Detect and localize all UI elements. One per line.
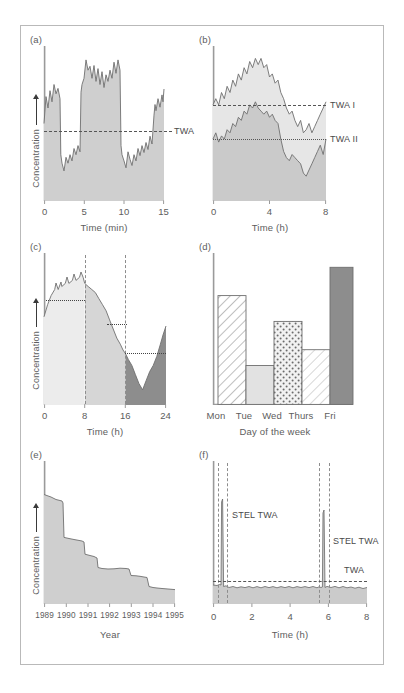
bar-mon xyxy=(218,296,246,405)
panel-e-tag: (e) xyxy=(30,449,42,460)
panel-b-xticklabel-2: 8 xyxy=(316,206,336,217)
panel-b-xticklabel-0: 0 xyxy=(204,206,224,217)
bar-wed xyxy=(274,321,302,404)
panel-f-stel2-end xyxy=(329,463,330,603)
panel-c-shift2-area xyxy=(85,283,126,405)
panel-f-twa-line xyxy=(213,581,367,582)
panel-b-tag: (b) xyxy=(199,34,211,45)
panel-f-xticklabel-0: 0 xyxy=(204,611,224,622)
panel-c-xticklabel-0: 0 xyxy=(35,410,55,421)
panel-a-xticklabel-2: 10 xyxy=(114,206,134,217)
panel-a-xticklabel-0: 0 xyxy=(35,206,55,217)
bar-tue xyxy=(246,366,274,405)
panel-c-shift-divider-8 xyxy=(85,255,86,404)
panel-c-xticklabel-3: 24 xyxy=(156,410,176,421)
panel-f-stel1-label: STEL TWA xyxy=(232,510,278,520)
panel-b-x-axis-label: Time (h) xyxy=(230,222,310,233)
panel-d: (d) xyxy=(193,236,385,441)
bar-fri xyxy=(330,267,353,404)
panel-a-y-arrow-stem xyxy=(36,99,37,125)
panel-b-xticklabel-1: 4 xyxy=(260,206,280,217)
panel-b-twa1-line xyxy=(213,105,326,106)
panel-e-plot xyxy=(44,461,175,604)
panel-e: (e) Concentration 1989 1990 1991 1992 19… xyxy=(21,441,193,666)
panel-e-x-axis-label: Year xyxy=(70,629,150,640)
panel-f-x-axis-label: Time (h) xyxy=(250,629,330,640)
panel-d-category-thurs: Thurs xyxy=(284,410,318,421)
bar-thurs xyxy=(302,350,330,405)
panel-a-xticklabel-3: 15 xyxy=(154,206,174,217)
figure-frame: (a) Concentration TWA 0 5 10 15 Time (mi… xyxy=(20,25,384,665)
panel-c-x-axis-label: Time (h) xyxy=(65,426,145,437)
panel-b-twa2-line xyxy=(213,139,326,140)
panel-c-mean-shift2 xyxy=(107,324,127,325)
panel-f-stel2-label: STEL TWA xyxy=(333,536,379,546)
panel-a-x-axis-label: Time (min) xyxy=(64,222,144,233)
panel-d-category-mon: Mon xyxy=(200,410,232,421)
panel-b-twa1-label: TWA I xyxy=(330,100,355,110)
panel-f-twa-label: TWA xyxy=(344,565,364,575)
panel-c-mean-shift1 xyxy=(46,300,85,301)
panel-f-stel1-end xyxy=(227,463,228,603)
panel-c-shift-divider-16 xyxy=(125,255,126,404)
panel-f-stel1-start xyxy=(218,463,219,603)
panel-f: (f) STEL TWA STEL TWA TWA 0 2 4 6 8 Time… xyxy=(193,441,385,666)
panel-a-xticklabel-1: 5 xyxy=(74,206,94,217)
panel-a-twa-label: TWA xyxy=(174,126,194,136)
panel-b-twa2-label: TWA II xyxy=(330,134,358,144)
panel-c: (c) Concentration xyxy=(21,236,193,441)
panel-c-mean-shift3 xyxy=(125,353,166,354)
panel-f-xticklabel-4: 4 xyxy=(280,611,300,622)
panel-e-xticklabel-1995: 1995 xyxy=(162,611,188,620)
panel-b: (b) TWA I TWA II 0 4 8 Time (h) xyxy=(193,26,385,236)
panel-f-tag: (f) xyxy=(199,449,209,460)
panel-c-y-arrow-stem xyxy=(36,303,37,327)
panel-f-xticklabel-6: 6 xyxy=(318,611,338,622)
panel-d-x-axis-label: Day of the week xyxy=(220,426,330,437)
panel-c-xticklabel-1: 8 xyxy=(75,410,95,421)
panel-f-plot xyxy=(213,461,367,604)
panel-a-tag: (a) xyxy=(30,34,42,45)
panel-a: (a) Concentration TWA 0 5 10 15 Time (mi… xyxy=(21,26,193,236)
panel-e-y-arrow-stem xyxy=(36,508,37,532)
panel-f-xticklabel-8: 8 xyxy=(357,611,377,622)
panel-c-y-axis-label: Concentration xyxy=(31,331,41,390)
panel-c-xticklabel-2: 16 xyxy=(115,410,135,421)
panel-f-xticklabel-2: 2 xyxy=(242,611,262,622)
panel-e-y-axis-label: Concentration xyxy=(31,536,41,595)
panel-c-tag: (c) xyxy=(30,241,42,252)
panel-d-category-tue: Tue xyxy=(229,410,259,421)
panel-c-shift1-area xyxy=(44,272,85,405)
panel-a-twa-line xyxy=(44,131,172,132)
panel-a-y-axis-label: Concentration xyxy=(31,129,41,188)
panel-d-tag: (d) xyxy=(199,241,211,252)
panel-f-stel2-start xyxy=(319,463,320,603)
panel-d-category-fri: Fri xyxy=(317,410,343,421)
panel-d-plot xyxy=(213,253,353,405)
panel-a-plot xyxy=(44,46,164,201)
panel-c-plot xyxy=(44,253,166,405)
panel-b-plot xyxy=(213,46,326,201)
